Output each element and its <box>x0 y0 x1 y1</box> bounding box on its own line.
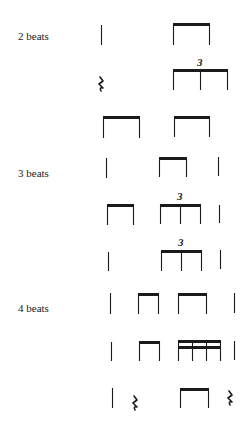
eighth-pair <box>139 341 160 361</box>
rhythm-notation: 3 3 3 <box>0 0 250 429</box>
quarter-rest-icon <box>133 396 137 410</box>
row-4 <box>107 157 219 178</box>
eighth-pair <box>107 204 134 225</box>
eighth-pair <box>173 23 210 45</box>
row-5 <box>107 204 220 225</box>
eighth-triplet <box>160 204 201 224</box>
quarter-rest-icon <box>228 391 232 405</box>
eighth-pair <box>159 157 187 177</box>
eighth-pair <box>138 293 159 314</box>
triplet-mark: 3 <box>196 56 203 68</box>
sixteenth-group <box>178 340 221 361</box>
quarter-rest-icon <box>99 77 103 91</box>
triplet-mark: 3 <box>177 236 184 248</box>
eighth-pair <box>103 116 140 138</box>
eighth-pair <box>180 388 209 408</box>
triplet-mark: 3 <box>176 190 183 202</box>
eighth-pair <box>178 293 207 314</box>
eighth-triplet <box>173 69 228 90</box>
row-8 <box>112 340 235 361</box>
eighth-triplet <box>161 250 202 271</box>
row-7 <box>111 293 235 314</box>
row-2 <box>173 69 228 90</box>
row-3 <box>103 116 210 138</box>
eighth-pair <box>174 116 210 137</box>
row-9 <box>113 388 210 408</box>
row-6 <box>109 250 221 271</box>
row-1 <box>102 23 211 45</box>
